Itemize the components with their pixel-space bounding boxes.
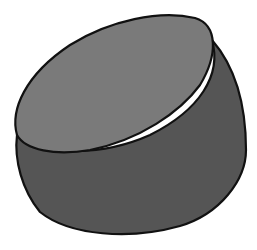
cylinder-drawing	[0, 0, 257, 250]
illustration-canvas	[0, 0, 257, 250]
